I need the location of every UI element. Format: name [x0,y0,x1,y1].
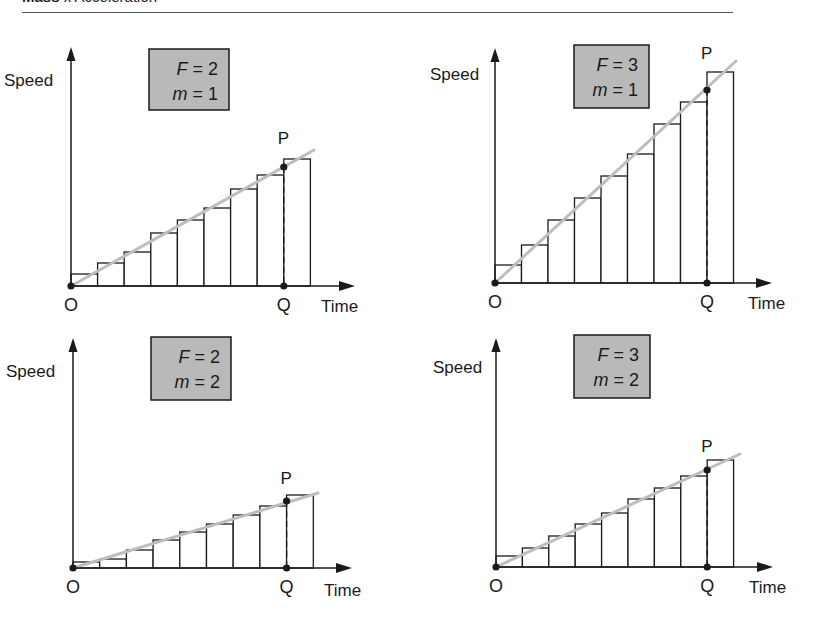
bar [575,198,602,283]
bar [233,515,260,568]
bar [628,499,654,567]
mass-value: m = 2 [593,370,639,390]
chart-panel-2: SpeedTimeOQPF = 3m = 1 [430,44,785,313]
force-value: F = 2 [178,347,220,367]
origin-dot [492,563,499,570]
mass-value: m = 1 [172,84,218,104]
bar [522,245,549,283]
bar [628,154,655,283]
bar [151,233,178,286]
origin-label: O [489,576,503,596]
x-axis-arrow-icon [339,281,355,291]
x-axis-arrow-icon [336,563,352,573]
bar [681,476,707,567]
bar [257,175,284,286]
q-dot [283,564,290,571]
p-dot [283,497,290,504]
origin-label: O [488,292,502,312]
chart-panel-4: SpeedTimeOQPF = 3m = 2 [433,335,786,597]
bar [707,72,734,283]
bar [602,513,628,567]
bar [124,252,151,286]
origin-label: O [66,577,80,597]
q-label: Q [700,292,714,312]
y-axis-label: Speed [6,362,55,381]
x-axis-arrow-icon [757,562,773,572]
p-label: P [281,469,292,488]
q-label: Q [277,295,291,315]
q-dot [704,563,711,570]
y-axis-arrow-icon [69,338,78,352]
q-dot [280,282,287,289]
bar [180,532,207,568]
p-dot [703,86,710,93]
bar [654,488,680,567]
bar [284,159,311,286]
origin-label: O [64,295,78,315]
bar [231,189,258,286]
bar [153,540,180,568]
x-axis-label: Time [321,297,358,316]
p-label: P [701,44,712,63]
x-axis-label: Time [324,581,361,600]
chart-panel-3: SpeedTimeOQPF = 2m = 2 [6,337,361,600]
y-axis-label: Speed [430,65,479,84]
bar [207,524,234,568]
bar [287,495,314,568]
figure-speed-time-charts: SpeedTimeOQPF = 2m = 1SpeedTimeOQPF = 3m… [0,0,813,621]
chart-panel-1: SpeedTimeOQPF = 2m = 1 [4,47,358,316]
bar [204,208,231,286]
y-axis-arrow-icon [491,48,500,62]
p-label: P [278,129,289,148]
y-axis-arrow-icon [67,47,76,61]
force-value: F = 2 [176,59,218,79]
bar [707,460,733,567]
force-value: F = 3 [597,345,639,365]
bar [100,559,127,568]
origin-dot [491,279,498,286]
origin-dot [69,564,76,571]
bar [522,548,548,567]
force-value: F = 3 [596,55,638,75]
q-label: Q [280,577,294,597]
q-label: Q [700,576,714,596]
bar [126,550,153,568]
mass-value: m = 1 [592,80,638,100]
bar [260,506,287,568]
x-axis-arrow-icon [756,278,772,288]
p-label: P [701,437,712,456]
bar [601,176,628,283]
origin-dot [67,282,74,289]
bar [575,524,601,567]
bar [98,263,125,286]
y-axis-label: Speed [433,358,482,377]
bar [654,124,681,283]
bar [681,102,708,283]
y-axis-arrow-icon [492,338,501,352]
x-axis-label: Time [749,578,786,597]
q-dot [703,279,710,286]
p-dot [704,466,711,473]
y-axis-label: Speed [4,71,53,90]
x-axis-label: Time [748,294,785,313]
mass-value: m = 2 [174,372,220,392]
p-dot [280,163,287,170]
bar [177,220,204,286]
